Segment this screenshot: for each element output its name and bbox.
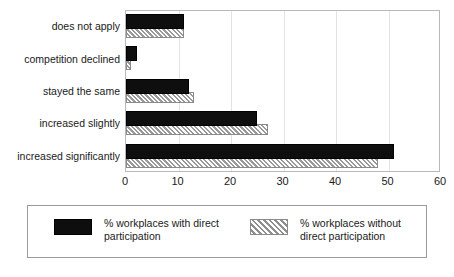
bar-group [126, 76, 441, 108]
x-tick-label: 10 [171, 175, 183, 187]
bar-series-with-direct-participation [126, 111, 257, 126]
legend-item-without-direct-participation: % workplaces without direct participatio… [250, 217, 401, 242]
category-label: does not apply [0, 21, 120, 32]
x-axis-tick-labels: 0102030405060 [0, 175, 454, 193]
legend-swatch-hatched-icon [250, 219, 288, 235]
bar-series-with-direct-participation [126, 46, 137, 61]
bar-group [126, 141, 441, 173]
bar-series-with-direct-participation [126, 14, 184, 29]
category-label: competition declined [0, 53, 120, 64]
category-axis: does not applycompetition declinedstayed… [0, 10, 120, 172]
bar-series-with-direct-participation [126, 144, 394, 159]
legend-label-without-direct-participation: % workplaces without direct participatio… [300, 217, 401, 242]
plot-area [125, 10, 440, 172]
category-label: increased significantly [0, 150, 120, 161]
x-tick-label: 40 [329, 175, 341, 187]
bar-chart-figure: does not applycompetition declinedstayed… [0, 0, 454, 200]
x-tick-label: 0 [122, 175, 128, 187]
category-label: increased slightly [0, 118, 120, 129]
x-tick-label: 20 [224, 175, 236, 187]
x-tick-label: 50 [381, 175, 393, 187]
legend: % workplaces with direct participation %… [27, 205, 427, 258]
x-tick-label: 30 [276, 175, 288, 187]
legend-item-with-direct-participation: % workplaces with direct participation [54, 217, 219, 242]
bar-group [126, 11, 441, 43]
legend-label-with-direct-participation: % workplaces with direct participation [104, 217, 219, 242]
bar-series-with-direct-participation [126, 79, 189, 94]
category-label: stayed the same [0, 86, 120, 97]
bar-group [126, 43, 441, 75]
legend-swatch-solid-icon [54, 219, 92, 235]
bar-group [126, 108, 441, 140]
x-tick-label: 60 [434, 175, 446, 187]
